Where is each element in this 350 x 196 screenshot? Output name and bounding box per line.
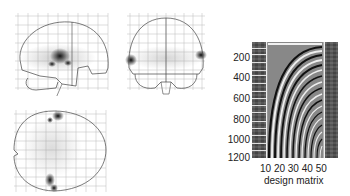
y-tick-200: 200	[220, 52, 250, 63]
x-tick-30: 30	[288, 163, 299, 174]
x-tick-50: 50	[316, 163, 327, 174]
x-tick-20: 20	[274, 163, 285, 174]
y-tick-400: 400	[220, 72, 250, 83]
y-tick-600: 600	[220, 93, 250, 104]
coronal-glass-brain	[125, 8, 207, 96]
design-matrix-image	[252, 42, 338, 158]
x-tick-40: 40	[302, 163, 313, 174]
axial-glass-brain	[12, 108, 108, 194]
sagittal-glass-brain	[10, 8, 110, 96]
x-tick-10: 10	[260, 163, 271, 174]
design-matrix-label: design matrix	[264, 175, 323, 186]
y-tick-1200: 1200	[220, 152, 250, 163]
y-tick-800: 800	[220, 114, 250, 125]
design-matrix-panel: 200 400 600 800 1000 1200 10 20 30 40 50…	[220, 40, 350, 196]
x-ticks: 10 20 30 40 50	[260, 163, 350, 174]
y-tick-1000: 1000	[220, 134, 250, 145]
